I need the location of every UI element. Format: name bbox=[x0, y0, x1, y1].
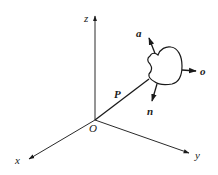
y-axis bbox=[95, 120, 189, 153]
normal-vector-n bbox=[152, 84, 157, 101]
rigid-body-object bbox=[148, 47, 182, 85]
position-vector-p bbox=[95, 79, 149, 120]
coordinate-frame-diagram: z x y O P a o n bbox=[0, 0, 218, 175]
z-axis-label: z bbox=[83, 12, 89, 24]
normal-vector-label: n bbox=[147, 105, 153, 117]
origin-label: O bbox=[89, 122, 97, 134]
x-axis-label: x bbox=[14, 154, 20, 166]
approach-vector-label: a bbox=[136, 27, 142, 39]
x-axis bbox=[29, 120, 95, 159]
orientation-vector-label: o bbox=[200, 65, 206, 77]
y-axis-label: y bbox=[194, 149, 200, 161]
position-vector-label: P bbox=[114, 88, 121, 100]
orientation-vector-o bbox=[182, 70, 196, 71]
